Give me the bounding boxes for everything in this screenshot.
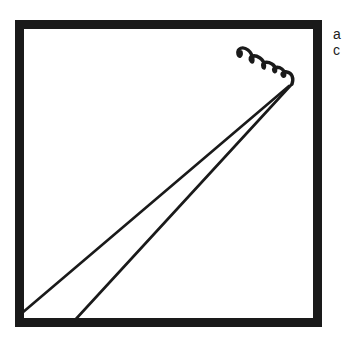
edge-text-line-2: c — [333, 42, 343, 58]
thread-line-left — [22, 86, 289, 313]
cropped-edge-text: a c — [333, 26, 343, 58]
edge-text-line-1: a — [333, 26, 343, 42]
thread-line-right — [75, 84, 292, 320]
coil-spiral — [238, 48, 293, 84]
